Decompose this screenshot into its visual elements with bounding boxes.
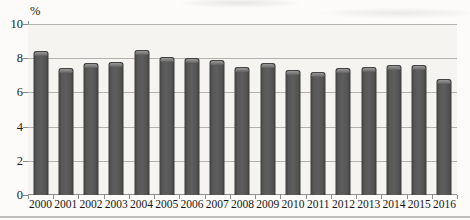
bar-column-2001 — [53, 24, 78, 195]
y-axis-tick — [23, 127, 28, 128]
bar-column-2003 — [104, 24, 129, 195]
x-axis-tick — [255, 195, 256, 199]
x-axis-tick — [154, 195, 155, 199]
bar-column-2010 — [280, 24, 305, 195]
y-axis-tick-label: 0 — [1, 189, 23, 201]
bar-2006 — [185, 58, 200, 195]
bottom-rule — [0, 216, 470, 218]
x-axis-tick — [53, 195, 54, 199]
y-axis-tick-label: 8 — [1, 52, 23, 64]
x-axis-tick — [432, 195, 433, 199]
x-axis-tick — [104, 195, 105, 199]
x-axis-tick — [230, 195, 231, 199]
bar-2010 — [285, 70, 300, 195]
bar-column-2007 — [205, 24, 230, 195]
bar-2012 — [336, 68, 351, 195]
y-axis-tick — [23, 24, 28, 25]
x-axis-tick — [179, 195, 180, 199]
bar-column-2015 — [407, 24, 432, 195]
bar-column-2011 — [306, 24, 331, 195]
x-axis-tick — [78, 195, 79, 199]
x-axis-tick — [356, 195, 357, 199]
bar-2015 — [412, 65, 427, 195]
bar-column-2008 — [230, 24, 255, 195]
bar-chart-figure: % 02468102000200120022003200420052006200… — [0, 0, 470, 220]
x-axis-tick — [457, 195, 458, 199]
bar-2016 — [437, 79, 452, 195]
x-axis-tick — [381, 195, 382, 199]
bar-column-2004 — [129, 24, 154, 195]
y-axis-tick-label: 4 — [1, 121, 23, 133]
x-axis-year-label: 2016 — [429, 198, 459, 210]
x-axis-tick — [129, 195, 130, 199]
bar-2011 — [311, 72, 326, 195]
bar-column-2016 — [432, 24, 457, 195]
plot-area — [28, 24, 457, 195]
bar-2000 — [33, 51, 48, 195]
y-axis-tick-label: 10 — [1, 18, 23, 30]
x-axis-tick — [331, 195, 332, 199]
y-axis-tick-label: 6 — [1, 86, 23, 98]
bar-2009 — [260, 63, 275, 195]
x-axis-tick — [407, 195, 408, 199]
bar-2001 — [58, 68, 73, 195]
bar-column-2005 — [154, 24, 179, 195]
y-axis-tick — [23, 161, 28, 162]
bar-2014 — [386, 65, 401, 195]
y-axis-tick — [23, 92, 28, 93]
x-axis-tick — [28, 195, 29, 199]
bar-column-2002 — [78, 24, 103, 195]
y-axis-tick-label: 2 — [1, 155, 23, 167]
bar-2002 — [84, 63, 99, 195]
bar-column-2014 — [381, 24, 406, 195]
bar-column-2009 — [255, 24, 280, 195]
bar-2005 — [159, 57, 174, 196]
bar-column-2000 — [28, 24, 53, 195]
bar-2003 — [109, 62, 124, 195]
x-axis-tick — [205, 195, 206, 199]
bar-2007 — [210, 60, 225, 195]
bar-column-2006 — [179, 24, 204, 195]
x-axis-tick — [306, 195, 307, 199]
bar-column-2012 — [331, 24, 356, 195]
bar-column-2013 — [356, 24, 381, 195]
bar-2013 — [361, 67, 376, 195]
y-axis-unit-label: % — [30, 4, 40, 19]
bar-2004 — [134, 50, 149, 195]
bar-2008 — [235, 67, 250, 195]
y-axis-tick — [23, 58, 28, 59]
x-axis-tick — [280, 195, 281, 199]
